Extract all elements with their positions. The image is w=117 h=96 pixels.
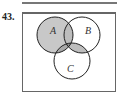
venn-diagram: A B C [0, 0, 117, 96]
label-c: C [67, 63, 74, 74]
label-a: A [49, 25, 57, 36]
label-b: B [85, 25, 91, 36]
